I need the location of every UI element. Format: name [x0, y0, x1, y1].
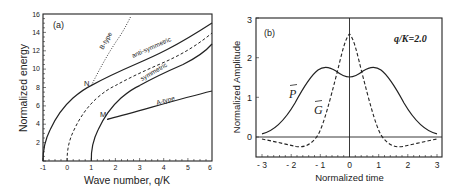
panel-a-xtick: 4 [162, 164, 166, 171]
p-bar-label: P [288, 87, 297, 101]
panel-b: 0 1 2 3 - 3 - 2 - 1 0 1 2 3 Normalized t… [231, 15, 442, 183]
a-type-label: A-type [155, 94, 176, 107]
m-point-label: M [100, 110, 106, 119]
g-bar-overline [315, 101, 322, 102]
panel-b-ytick-3: 3 [247, 15, 252, 25]
anti-symmetric-curve [43, 23, 212, 161]
panel-a-frame [43, 14, 212, 161]
panel-b-ytick-2: 2 [247, 53, 252, 63]
panel-a: 2 4 6 8 10 12 14 16 -1 0 1 2 3 4 5 6 Wav… [17, 11, 212, 187]
panel-a-ytick-2: 2 [36, 139, 40, 146]
panel-b-ylabel: Normalized Amplitude [231, 41, 242, 133]
g-bar-label: G [314, 103, 323, 117]
panel-b-tag: (b) [264, 28, 275, 38]
panel-a-ytick-12: 12 [32, 47, 40, 54]
panel-a-ytick-16: 16 [32, 11, 40, 18]
panel-a-xtick: -1 [40, 164, 46, 171]
panel-a-tag: (a) [53, 20, 64, 30]
p-bar-overline [290, 85, 297, 86]
anti-symmetric-label: anti-symmetric [131, 35, 174, 60]
panel-b-xtick: 3 [435, 160, 440, 170]
panel-a-xtick: 5 [186, 164, 190, 171]
panel-a-ytick-14: 14 [32, 29, 40, 36]
panel-a-xtick: 0 [65, 164, 69, 171]
panel-a-ytick-8: 8 [36, 84, 40, 91]
panel-a-ylabel: Normalized energy [17, 43, 29, 132]
panel-b-xtick: 0 [347, 160, 352, 170]
panel-b-xtick: - 3 [257, 160, 267, 170]
panel-b-xtick: - 2 [286, 160, 296, 170]
panel-b-xtick: 2 [405, 160, 410, 170]
panel-b-ytick-1: 1 [247, 93, 252, 103]
symmetric-curve [91, 44, 212, 161]
panel-a-xlabel: Wave number, q/K [84, 174, 170, 186]
panel-b-xlabel: Normalized time [315, 172, 384, 183]
figure: 2 4 6 8 10 12 14 16 -1 0 1 2 3 4 5 6 Wav… [0, 0, 461, 194]
panel-a-ytick-10: 10 [32, 65, 40, 72]
n-point-label: N [84, 79, 89, 88]
panel-a-xtick: 2 [113, 164, 117, 171]
panel-b-xtick: - 1 [315, 160, 325, 170]
panel-a-xtick: 3 [138, 164, 142, 171]
b-type-label: B-type [98, 30, 115, 51]
panel-a-xtick: 1 [89, 164, 93, 171]
panel-a-ytick-6: 6 [36, 102, 40, 109]
panel-b-xtick: 1 [376, 160, 381, 170]
panel-a-xtick: 6 [208, 164, 212, 171]
parameter-label: q/K=2.0 [394, 33, 427, 44]
panel-a-ytick-4: 4 [36, 120, 40, 127]
panel-b-ytick-0: 0 [247, 132, 252, 142]
